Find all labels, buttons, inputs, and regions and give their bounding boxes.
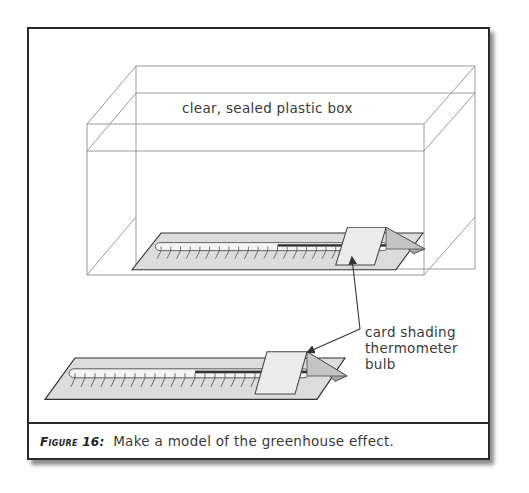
callout-arrows [308, 258, 360, 352]
thermometer-in-box [132, 227, 425, 269]
caption-text: Make a model of the greenhouse effect. [113, 433, 394, 449]
box-label: clear, sealed plastic box [182, 100, 353, 116]
caption-divider [27, 422, 490, 424]
caption-prefix: Figure 16: [40, 435, 105, 449]
greenhouse-model-diagram [0, 0, 529, 493]
figure-caption: Figure 16: Make a model of the greenhous… [40, 433, 394, 449]
thermometer-outside [45, 352, 347, 400]
callout-label: card shading thermometer bulb [365, 324, 475, 372]
